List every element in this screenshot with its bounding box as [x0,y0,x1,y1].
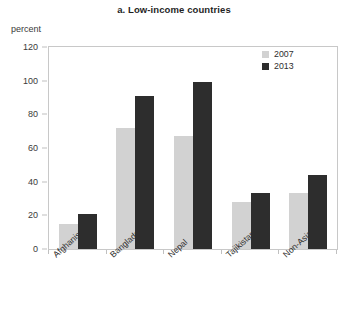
bar-nepal-2013[interactable] [193,82,212,249]
y-axis-tick-mark [42,249,47,250]
y-axis-unit-label: percent [11,24,41,34]
y-axis-tick-mark [42,181,47,182]
legend-label-2007: 2007 [274,50,294,59]
y-axis-tick-mark [42,148,47,149]
bar-nepal-2007[interactable] [174,136,193,249]
bar-group [164,47,222,249]
y-axis: 020406080100120 [0,46,48,250]
bar-group [279,47,337,249]
y-axis-tick-label: 60 [28,143,38,153]
chart-legend: 2007 2013 [262,50,294,71]
legend-swatch-icon-2013 [262,63,269,70]
bar-tajikistan-2013[interactable] [251,193,270,249]
y-axis-tick-label: 0 [33,244,38,254]
legend-item-2007[interactable]: 2007 [262,50,294,59]
y-axis-tick-label: 20 [28,210,38,220]
bar-group [49,47,107,249]
chart-container: a. Low-income countries percent 02040608… [0,0,348,311]
y-axis-tick-label: 100 [23,76,38,86]
y-axis-tick-mark [42,215,47,216]
legend-swatch-icon-2007 [262,51,269,58]
y-axis-tick-label: 80 [28,109,38,119]
bar-series-layer [49,47,337,249]
y-axis-tick-label: 120 [23,42,38,52]
y-axis-tick-label: 40 [28,177,38,187]
legend-item-2013[interactable]: 2013 [262,62,294,71]
bar-group [107,47,165,249]
bar-group [222,47,280,249]
x-axis-category-labels: AfghanistanBangladeshNepalTajikistanNon-… [48,252,338,310]
chart-title: a. Low-income countries [0,4,348,15]
y-axis-tick-mark [42,114,47,115]
y-axis-tick-mark [42,47,47,48]
legend-label-2013: 2013 [274,62,294,71]
y-axis-tick-mark [42,80,47,81]
